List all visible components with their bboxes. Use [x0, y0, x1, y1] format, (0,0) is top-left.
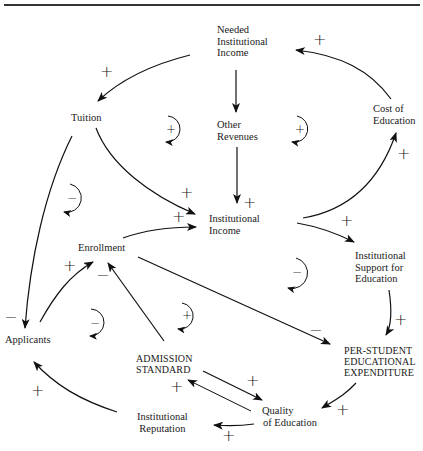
loop-sign-plus-right: +: [295, 123, 305, 135]
polarity-plus-quality-reputation: +: [222, 428, 235, 444]
link-support-to-perstudent: [386, 290, 391, 335]
polarity-plus-other-income: +: [243, 195, 256, 211]
polarity-plus-enrollment-income: +: [172, 209, 185, 225]
node-institutional-income: Institutional Income: [209, 213, 260, 236]
link-quality-to-admission: [188, 380, 251, 411]
polarity-plus-applicants-enrollment: +: [63, 258, 76, 274]
polarity-plus-quality-admission: +: [170, 379, 183, 395]
loop-sign-minus-tuition: −: [67, 192, 77, 204]
node-tuition: Tuition: [71, 112, 102, 124]
polarity-plus-perstudent-quality: +: [336, 402, 349, 418]
node-quality-of-education: Quality of Education: [262, 405, 317, 428]
polarity-plus-tuition-income: +: [180, 185, 193, 201]
polarity-minus-tuition-applicants: −: [4, 310, 17, 326]
polarity-plus-support-perstudent: +: [394, 312, 407, 328]
loop-sign-minus-support: −: [292, 266, 302, 278]
polarity-plus-reputation-applicants: +: [31, 383, 44, 399]
polarity-minus-admission-enrollment: −: [96, 268, 109, 284]
polarity-plus-income-support: +: [340, 213, 353, 229]
loop-sign-plus-left: +: [166, 123, 176, 135]
link-reputation-to-applicants: [34, 362, 117, 412]
polarity-plus-income-cost: +: [397, 146, 410, 162]
node-other-revenues: Other Revenues: [217, 119, 258, 142]
polarity-plus-admission-quality: +: [246, 373, 259, 389]
node-needed-institutional-income: Needed Institutional Income: [217, 24, 268, 59]
node-enrollment: Enrollment: [78, 242, 125, 254]
link-tuition-to-applicants: [25, 136, 72, 328]
link-income-to-cost: [303, 133, 396, 218]
link-admission-to-enrollment: [108, 263, 164, 341]
node-per-student-expenditure: PER-STUDENT EDUCATIONAL EXPENDITURE: [344, 345, 416, 378]
node-institutional-support: Institutional Support for Education: [355, 250, 406, 285]
loop-sign-minus-applicants: −: [90, 317, 100, 329]
link-cost-to-needed: [296, 50, 391, 99]
polarity-plus-needed-tuition: +: [100, 64, 113, 80]
loop-sign-plus-admission: +: [182, 309, 192, 321]
node-applicants: Applicants: [5, 334, 51, 346]
node-institutional-reputation: Institutional Reputation: [137, 411, 188, 434]
polarity-minus-enrollment-perstudent: −: [309, 323, 322, 339]
node-cost-of-education: Cost of Education: [373, 103, 416, 126]
polarity-plus-cost-needed: +: [313, 32, 326, 48]
link-enrollment-to-income: [123, 227, 196, 238]
node-admission-standard: ADMISSION STANDARD: [136, 353, 192, 375]
